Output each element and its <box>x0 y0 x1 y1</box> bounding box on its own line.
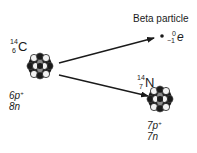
arrow-to-nitrogen <box>59 75 148 96</box>
carbon-element-symbol: C <box>18 40 27 53</box>
arrow-to-beta <box>59 38 154 63</box>
beta-element-symbol: e <box>177 31 184 44</box>
nitrogen-atomic-number: 7 <box>139 83 143 90</box>
carbon-nucleon-counts: 6p+ 8n <box>9 88 24 112</box>
beta-charge-number: −1 <box>167 37 175 44</box>
nitrogen-element-symbol: N <box>145 76 154 89</box>
carbon-mass-number: 14 <box>10 38 18 45</box>
carbon-nucleus-icon <box>27 53 53 79</box>
carbon-neutrons: 8n <box>9 101 24 112</box>
nitrogen-protons: 7p <box>147 120 158 131</box>
nitrogen-proton-charge: + <box>158 120 162 126</box>
carbon-proton-charge: + <box>20 90 24 96</box>
carbon-atomic-number: 6 <box>12 47 16 54</box>
beta-particle-label: Beta particle <box>133 14 189 24</box>
nitrogen-nucleon-counts: 7p+ 7n <box>147 118 162 142</box>
nitrogen-neutrons: 7n <box>147 131 162 142</box>
beta-mass-number: 0 <box>172 30 176 37</box>
nitrogen-mass-number: 14 <box>137 74 145 81</box>
beta-particle-dot-icon <box>160 34 164 38</box>
carbon-protons: 6p <box>9 90 20 101</box>
